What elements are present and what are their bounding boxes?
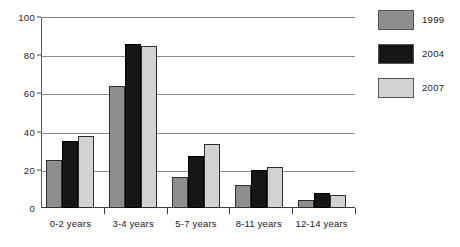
x-axis-label-5-7-years: 5-7 years	[175, 218, 216, 229]
bar-1999-12-14-years	[298, 200, 314, 208]
bar-1999-3-4-years	[109, 86, 125, 208]
legend-swatch-1999	[378, 10, 414, 30]
y-tick-label-40: 40	[0, 126, 35, 137]
y-tick-label-80: 80	[0, 50, 35, 61]
y-tick-label-100: 100	[0, 12, 35, 23]
x-axis-tick	[104, 208, 105, 214]
bar-group	[172, 17, 220, 208]
legend-item-2004: 2004	[378, 44, 454, 71]
bar-2004-5-7-years	[188, 156, 204, 208]
legend-label-2007: 2007	[422, 82, 444, 93]
x-axis-tick	[229, 208, 230, 214]
x-axis-tick	[355, 208, 356, 214]
bar-group	[46, 17, 94, 208]
bar-2004-3-4-years	[125, 44, 141, 208]
bar-2007-5-7-years	[204, 144, 220, 208]
bar-2007-3-4-years	[141, 46, 157, 208]
x-axis-label-8-11-years: 8-11 years	[236, 218, 282, 229]
legend-label-2004: 2004	[422, 48, 444, 59]
y-tick-label-60: 60	[0, 88, 35, 99]
bar-chart: 100 80 60 40 20 0 0-2 years3-4 years5-7 …	[0, 0, 460, 247]
legend-item-1999: 1999	[378, 10, 454, 37]
bar-group	[298, 17, 346, 208]
bar-2004-12-14-years	[314, 193, 330, 208]
legend-swatch-2004	[378, 44, 414, 64]
legend-label-1999: 1999	[422, 14, 444, 25]
bar-group	[235, 17, 283, 208]
bar-2004-0-2-years	[62, 141, 78, 208]
bar-group	[109, 17, 157, 208]
legend-swatch-2007	[378, 78, 414, 98]
bar-1999-5-7-years	[172, 177, 188, 208]
x-axis-label-12-14-years: 12-14 years	[295, 218, 347, 229]
x-axis-tick	[292, 208, 293, 214]
x-axis-tick	[167, 208, 168, 214]
bar-groups	[41, 17, 355, 208]
bar-1999-0-2-years	[46, 160, 62, 208]
x-axis-label-0-2-years: 0-2 years	[50, 218, 91, 229]
y-tick-label-0: 0	[0, 203, 35, 214]
x-axis-label-3-4-years: 3-4 years	[112, 218, 153, 229]
legend-item-2007: 2007	[378, 78, 454, 105]
y-tick-label-20: 20	[0, 164, 35, 175]
bar-1999-8-11-years	[235, 185, 251, 208]
bar-2004-8-11-years	[251, 170, 267, 208]
chart-legend: 1999 2004 2007	[378, 10, 454, 112]
bar-2007-0-2-years	[78, 136, 94, 208]
bar-2007-12-14-years	[330, 195, 346, 208]
bar-2007-8-11-years	[267, 167, 283, 208]
